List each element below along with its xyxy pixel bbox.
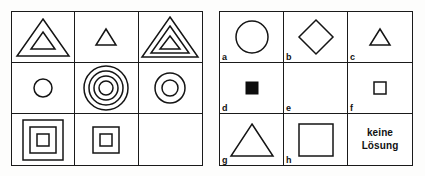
answer-option-g-label: g [222,156,228,165]
triangle-icon [367,26,393,48]
problem-cell-3 [139,12,202,63]
answer-option-f-label: f [350,104,353,113]
large-square-icon [297,122,335,158]
answer-option-g[interactable]: g [220,114,284,165]
answer-option-b[interactable]: b [284,12,348,63]
nested-squares-figure [21,118,65,162]
answer-option-h-label: h [286,156,292,165]
small-triangle-figure [93,26,119,48]
square-icon [372,80,388,96]
problem-cell-6 [139,63,202,114]
answer-option-a[interactable]: a [220,12,284,63]
answer-option-f[interactable]: f [348,63,412,114]
no-solution-line-2: Lösung [362,140,399,153]
filled-square-icon [244,80,260,96]
answer-option-d-label: d [222,104,228,113]
problem-cell-1 [12,12,75,63]
answer-option-h[interactable]: h [284,114,348,165]
answer-option-d[interactable]: d [220,63,284,114]
problem-cell-9-empty [139,114,202,165]
worksheet-sheet: a b c d e f [0,0,425,176]
circle-icon [234,19,270,55]
no-solution-line-1: keine [362,127,399,140]
problem-cell-7 [12,114,75,165]
answer-option-a-label: a [222,53,227,62]
no-solution-text: keine Lösung [362,127,399,152]
nested-triangles-figure [14,15,72,59]
answer-option-e-label: e [286,104,291,113]
double-square-figure [91,125,121,155]
small-circle-figure [31,76,55,100]
double-circle-figure [153,71,187,105]
answer-option-c[interactable]: c [348,12,412,63]
diamond-icon [297,18,335,56]
answer-option-e[interactable]: e [284,63,348,114]
problem-matrix [11,11,203,166]
concentric-circles-figure [82,64,130,112]
problem-cell-5 [75,63,138,114]
problem-cell-4 [12,63,75,114]
problem-cell-2 [75,12,138,63]
answer-option-c-label: c [350,53,355,62]
answer-option-no-solution[interactable]: keine Lösung [348,114,412,165]
answer-options-panel: a b c d e f [219,11,413,166]
large-triangle-icon [229,122,275,158]
problem-cell-8 [75,114,138,165]
answer-option-b-label: b [286,53,292,62]
triple-nested-triangles-figure [140,14,200,60]
